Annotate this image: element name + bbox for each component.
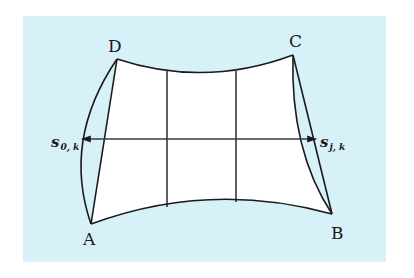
corner-label-c: C [289, 33, 302, 50]
corner-label-a: A [83, 231, 95, 248]
right-vector-label: sj, k [320, 135, 345, 152]
left-vector-subscript: 0, k [60, 142, 79, 152]
corner-label-b: B [331, 225, 344, 242]
left-vector-label: s0, k [51, 135, 79, 152]
right-vector-symbol: s [320, 133, 328, 151]
corner-label-d: D [108, 38, 122, 55]
right-vector-subscript: j, k [329, 142, 345, 152]
left-vector-symbol: s [51, 133, 59, 151]
